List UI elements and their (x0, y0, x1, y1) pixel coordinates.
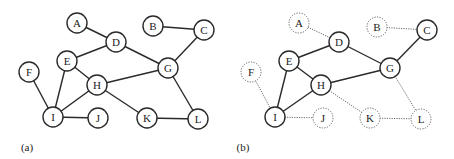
node-label: J (321, 112, 326, 124)
node-d: D (329, 32, 349, 52)
panel-b-nodes: ABCDEFGHIJKL (241, 13, 437, 129)
node-label: D (335, 36, 343, 48)
node-label: E (64, 55, 71, 67)
node-label: F (26, 66, 32, 78)
node-label: J (96, 112, 101, 124)
node-label: A (295, 17, 303, 29)
node-label: K (143, 112, 151, 124)
node-h: H (87, 75, 107, 95)
node-j: J (88, 108, 108, 128)
node-c: C (417, 20, 437, 40)
node-g: G (380, 58, 400, 78)
node-b: B (143, 16, 163, 36)
node-label: G (164, 62, 172, 74)
node-e: E (57, 51, 77, 71)
edge-h-g (97, 68, 168, 85)
node-label: E (286, 55, 293, 67)
node-d: D (106, 32, 126, 52)
edges-layer (29, 23, 427, 119)
node-a: A (67, 13, 87, 33)
node-f: F (241, 62, 261, 82)
node-e: E (279, 51, 299, 71)
node-c: C (194, 20, 214, 40)
node-b: B (367, 17, 387, 37)
node-i: I (43, 107, 63, 127)
node-k: K (137, 108, 157, 128)
node-label: B (149, 20, 156, 32)
node-label: C (200, 24, 207, 36)
node-label: B (373, 21, 380, 33)
node-label: K (366, 112, 374, 124)
node-label: L (195, 113, 202, 125)
graph-figure: ABCDEFGHIJKLABCDEFGHIJKL (a)(b) (0, 0, 454, 159)
node-label: F (248, 66, 254, 78)
node-g: G (158, 58, 178, 78)
node-h: H (311, 75, 331, 95)
panel-label-b: (b) (237, 141, 250, 154)
node-j: J (313, 108, 333, 128)
node-a: A (289, 13, 309, 33)
node-i: I (265, 107, 285, 127)
node-label: G (386, 62, 394, 74)
node-label: I (51, 111, 55, 123)
panel-label-a: (a) (21, 141, 34, 154)
node-k: K (360, 108, 380, 128)
node-label: C (423, 24, 430, 36)
node-label: L (418, 113, 425, 125)
node-l: L (411, 109, 431, 129)
node-label: A (73, 17, 81, 29)
node-label: I (273, 111, 277, 123)
node-label: H (93, 79, 101, 91)
node-label: H (317, 79, 325, 91)
panel-a-nodes: ABCDEFGHIJKL (19, 13, 214, 129)
nodes-layer: ABCDEFGHIJKLABCDEFGHIJKL (19, 13, 437, 129)
node-label: D (112, 36, 120, 48)
node-f: F (19, 62, 39, 82)
node-l: L (188, 109, 208, 129)
panel-labels-layer: (a)(b) (21, 141, 250, 154)
